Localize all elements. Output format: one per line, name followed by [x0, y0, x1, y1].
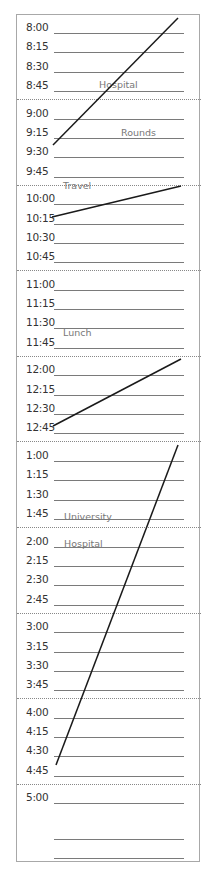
block-lunch: [53, 359, 181, 426]
block-university-hospital: [56, 445, 178, 765]
block-travel: [52, 186, 181, 217]
time-block-strokes: [0, 0, 213, 873]
block-hospital-rounds: [53, 18, 178, 145]
